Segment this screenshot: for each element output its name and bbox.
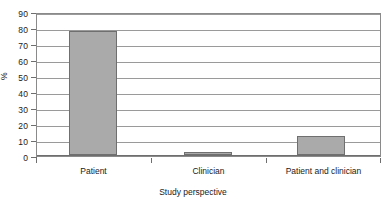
x-axis-category-label-2: Patient and clinician: [266, 167, 381, 176]
y-axis-tick-label-40: 40: [2, 90, 28, 99]
bar-patient-and-clinician: [297, 136, 345, 155]
y-axis-tick-label-30: 30: [2, 106, 28, 115]
plot-area: [36, 13, 381, 157]
x-axis-tick-start: [36, 158, 37, 163]
gridline-90: [37, 14, 380, 15]
y-axis-tick-label-20: 20: [2, 122, 28, 131]
baseline-0: [37, 155, 380, 156]
bar-chart: % 90 80 70 60 50 40 30 20 10 0: [0, 0, 386, 206]
y-axis-tick-label-10: 10: [2, 138, 28, 147]
y-axis-tick-label-90: 90: [2, 10, 28, 19]
x-axis-tick-1: [151, 158, 152, 163]
x-axis-category-label-1: Clinician: [151, 167, 266, 176]
y-axis-tick-label-0: 0: [2, 154, 28, 163]
bar-patient: [69, 31, 117, 155]
bar-clinician: [184, 152, 232, 155]
x-axis-title: Study perspective: [0, 188, 386, 197]
y-axis-tick-label-60: 60: [2, 58, 28, 67]
x-axis-tick-2: [266, 158, 267, 163]
y-axis-tick-label-80: 80: [2, 26, 28, 35]
y-axis-tick-label-50: 50: [2, 74, 28, 83]
x-axis-tick-end: [380, 158, 381, 163]
y-axis-tick-label-70: 70: [2, 42, 28, 51]
x-axis-category-label-0: Patient: [36, 167, 151, 176]
